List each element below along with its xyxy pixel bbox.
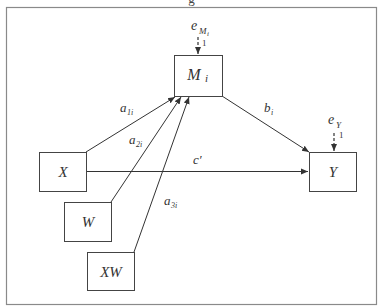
label-a3-a: a xyxy=(164,193,171,208)
node-x-label: X xyxy=(57,164,68,180)
label-a2-sub: 2i xyxy=(136,140,142,149)
node-w-label: W xyxy=(82,214,96,230)
label-a3-sub: 3i xyxy=(170,201,177,210)
error-y-e: e xyxy=(328,112,334,127)
label-b-sub: i xyxy=(271,108,273,117)
label-a2-a: a xyxy=(129,132,136,147)
moderated-mediation-diagram: X W XW M i Y e M i 1 e Y 1 a 1i a 2i a 3… xyxy=(0,0,383,308)
label-a1: a 1i xyxy=(120,100,133,117)
label-c-prime: c′ xyxy=(193,152,202,167)
error-label-m: e M i 1 xyxy=(191,18,209,48)
label-a1-a: a xyxy=(120,100,127,115)
path-a3 xyxy=(134,97,189,252)
label-a1-sub: 1i xyxy=(127,108,133,117)
error-m-subsub: i xyxy=(207,30,209,38)
node-m-label: M xyxy=(186,66,202,83)
node-w: W xyxy=(65,203,112,242)
error-m-sub: M xyxy=(198,26,207,36)
node-y: Y xyxy=(310,153,357,192)
label-a2: a 2i xyxy=(129,132,142,149)
node-m-subscript: i xyxy=(205,72,208,84)
label-c-prime-text: c′ xyxy=(193,152,202,167)
error-y-weight: 1 xyxy=(339,130,344,140)
node-m: M i xyxy=(175,56,223,97)
label-b-b: b xyxy=(264,100,271,115)
node-xw: XW xyxy=(88,253,135,291)
node-x: X xyxy=(40,153,87,192)
error-m-e: e xyxy=(191,18,197,33)
error-m-weight: 1 xyxy=(202,38,207,48)
label-a3: a 3i xyxy=(164,193,177,210)
error-label-y: e Y 1 xyxy=(328,112,344,140)
label-b: b i xyxy=(264,100,273,117)
node-xw-label: XW xyxy=(99,264,123,280)
error-y-sub: Y xyxy=(336,120,342,130)
